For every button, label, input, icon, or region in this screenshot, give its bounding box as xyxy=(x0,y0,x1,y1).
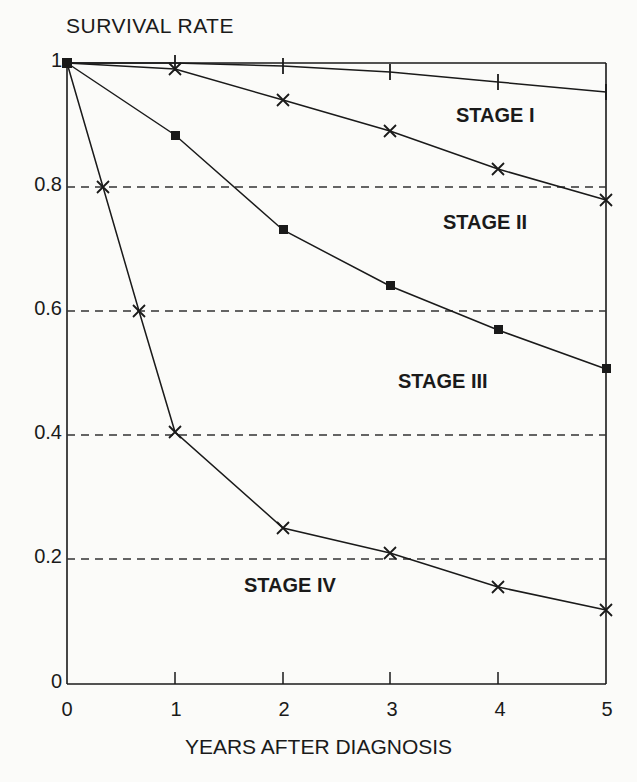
series-stage-1 xyxy=(67,55,606,100)
label-stage-1: STAGE I xyxy=(456,104,535,127)
series-stage-4 xyxy=(67,63,612,616)
grid-lines xyxy=(67,187,606,559)
plot-frame xyxy=(67,63,606,684)
label-stage-3: STAGE III xyxy=(398,370,488,393)
survival-chart xyxy=(0,0,637,782)
x-markers xyxy=(97,181,612,616)
tick-markers xyxy=(175,55,606,100)
x-markers xyxy=(169,63,612,206)
label-stage-2: STAGE II xyxy=(443,211,527,234)
x-axis-ticks xyxy=(175,672,498,684)
label-stage-4: STAGE IV xyxy=(244,574,336,597)
